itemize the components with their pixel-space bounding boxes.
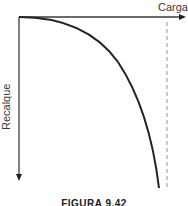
figure-caption: FIGURA 9.42	[0, 199, 188, 206]
load-settlement-diagram	[0, 0, 188, 206]
y-axis-label: Recalque	[1, 84, 12, 130]
load-settlement-curve	[19, 17, 159, 188]
x-axis-arrowhead-icon	[179, 14, 186, 20]
x-axis-label: Carga	[158, 2, 188, 13]
y-axis-arrowhead-icon	[16, 174, 22, 181]
